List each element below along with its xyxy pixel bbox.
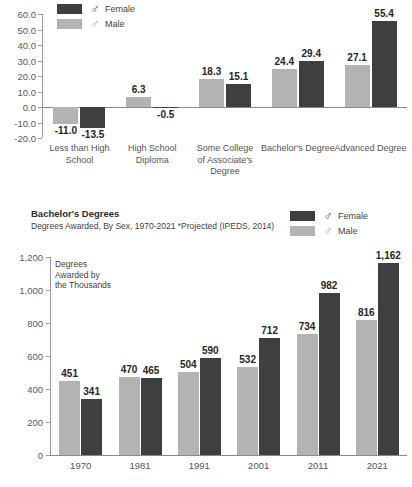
chart2-y-tick-label: 200 <box>27 417 43 428</box>
chart2-value-label: 982 <box>311 280 348 291</box>
chart1-bar-male-some-college-of-associate-s-degree <box>199 79 224 107</box>
chart2-y-tick-label: 1,200 <box>19 252 43 263</box>
chart2-bar-female-1970 <box>81 399 102 455</box>
chart2-y-tick-label: 800 <box>27 318 43 329</box>
chart2-x-axis-line <box>50 455 407 456</box>
chart1-bar-male-advanced-degree <box>345 65 370 107</box>
bachelors-degrees-chart: Bachelor's Degrees Degrees Awarded, By S… <box>0 200 412 487</box>
legend-swatch-female <box>57 4 82 14</box>
employment-change-chart: ♂ Female ♂ Male 60.050.040.030.020.010.0… <box>0 0 412 196</box>
chart1-y-tick-label: 40.0 <box>18 40 37 51</box>
chart1-bar-female-bachelor-s-degree <box>299 61 324 107</box>
chart1-category-label-line: of Associate's <box>183 155 268 167</box>
chart1-plot-area: -11.0-13.56.3-0.518.315.124.429.427.155.… <box>43 14 407 138</box>
chart2-category-label: 2011 <box>288 460 347 471</box>
mars-symbol-icon: ♂ <box>321 226 335 236</box>
chart1-y-tick-label: 10.0 <box>18 86 37 97</box>
chart2-y-tick-label: 0 <box>38 450 43 461</box>
mars-symbol-icon: ♂ <box>321 211 335 221</box>
legend-swatch-female <box>290 211 315 221</box>
chart2-bar-female-2001 <box>259 338 280 455</box>
chart2-bar-male-2001 <box>237 367 258 455</box>
chart1-value-label: -0.5 <box>146 109 185 120</box>
legend-label-male: Male <box>338 226 358 236</box>
chart1-y-axis: 60.050.040.030.020.010.00.0-10.0-20.0 <box>2 14 42 136</box>
chart2-bar-female-2021 <box>378 263 399 455</box>
chart2-value-label: 712 <box>251 325 288 336</box>
chart2-value-label: 590 <box>192 345 229 356</box>
chart1-bar-male-less-than-high-school <box>53 107 78 124</box>
chart1-y-tick-label: 60.0 <box>18 9 37 20</box>
chart1-y-tick-label: 20.0 <box>18 71 37 82</box>
chart1-bar-female-some-college-of-associate-s-degree <box>226 84 251 107</box>
chart1-bar-male-high-school-diploma <box>126 97 151 107</box>
chart1-y-tick-label: 30.0 <box>18 55 37 66</box>
chart2-category-label: 2021 <box>348 460 407 471</box>
chart2-category-label: 1991 <box>170 460 229 471</box>
chart2-bar-female-1981 <box>141 378 162 455</box>
chart1-y-tick-label: 50.0 <box>18 24 37 35</box>
mars-symbol-icon: ♂ <box>88 4 102 14</box>
chart1-bar-female-advanced-degree <box>372 21 397 107</box>
chart2-value-label: 1,162 <box>370 250 407 261</box>
chart2-bar-female-1991 <box>200 358 221 455</box>
chart1-value-label: 15.1 <box>219 71 258 82</box>
chart1-bar-male-bachelor-s-degree <box>272 69 297 107</box>
chart1-value-label: 55.4 <box>365 8 404 19</box>
chart1-value-label: 6.3 <box>119 84 158 95</box>
chart2-bar-male-1981 <box>119 377 140 455</box>
chart1-y-tick-mark <box>38 138 42 139</box>
chart2-legend: ♂ Female ♂ Male <box>290 210 368 240</box>
chart2-category-label: 1970 <box>51 460 110 471</box>
chart2-legend-item-male: ♂ Male <box>290 225 368 237</box>
chart1-y-tick-label: 0.0 <box>23 102 36 113</box>
legend-label-female: Female <box>105 4 135 14</box>
chart2-bar-male-1991 <box>178 372 199 455</box>
chart2-bar-male-2011 <box>297 334 318 455</box>
chart1-category-label-line: Advanced Degree <box>328 143 412 155</box>
chart2-title: Bachelor's Degrees <box>31 208 119 219</box>
chart2-category-label: 1981 <box>110 460 169 471</box>
chart1-y-tick-label: -20.0 <box>14 133 36 144</box>
chart2-category-label: 2001 <box>229 460 288 471</box>
chart1-value-label: -13.5 <box>73 129 112 140</box>
chart2-y-tick-label: 400 <box>27 384 43 395</box>
chart2-bar-male-2021 <box>356 320 377 455</box>
chart2-legend-item-female: ♂ Female <box>290 210 368 222</box>
chart2-y-tick-label: 1,000 <box>19 285 43 296</box>
chart2-value-label: 465 <box>133 365 170 376</box>
chart2-value-label: 451 <box>51 368 88 379</box>
chart2-subtitle: Degrees Awarded, By Sex, 1970-2021 *Proj… <box>31 221 274 231</box>
legend-label-female: Female <box>338 211 368 221</box>
chart2-plot-area: 4513414704655045905327127349828161,162 <box>51 257 407 455</box>
chart2-bar-female-2011 <box>319 293 340 455</box>
chart1-bar-female-less-than-high-school <box>80 107 105 128</box>
legend-swatch-male <box>290 226 315 236</box>
chart1-value-label: 29.4 <box>292 48 331 59</box>
chart2-y-axis: 1,2001,0008006004002000 <box>2 257 50 455</box>
chart1-category-label: Advanced Degree <box>328 143 412 155</box>
chart1-y-tick-label: -10.0 <box>14 117 36 128</box>
chart1-category-label-line: Degree <box>183 166 268 178</box>
chart2-value-label: 341 <box>73 386 110 397</box>
chart2-y-tick-label: 600 <box>27 351 43 362</box>
